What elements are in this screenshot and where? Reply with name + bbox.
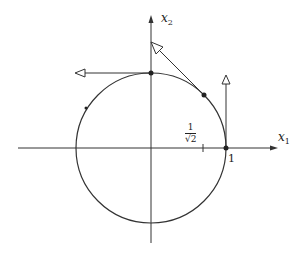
x-axis-arrowhead <box>270 146 278 151</box>
point-small <box>85 107 88 110</box>
frac-denominator: √2 <box>185 134 196 144</box>
vector-top-arrowhead <box>75 69 85 77</box>
point-diagonal <box>202 93 207 98</box>
frac-numerator: 1 <box>185 123 196 134</box>
inv-sqrt2-label: 1 √2 <box>185 123 196 144</box>
vector-right-arrowhead <box>222 75 230 84</box>
one-label: 1 <box>228 152 235 165</box>
vector-diagonal <box>158 49 204 95</box>
point-top <box>149 71 154 76</box>
point-right <box>224 146 229 151</box>
y-axis-arrowhead <box>149 15 154 23</box>
x-axis-label: x1 <box>278 131 290 146</box>
y-axis-label: x2 <box>161 12 173 27</box>
unit-circle-diagram <box>0 0 301 257</box>
